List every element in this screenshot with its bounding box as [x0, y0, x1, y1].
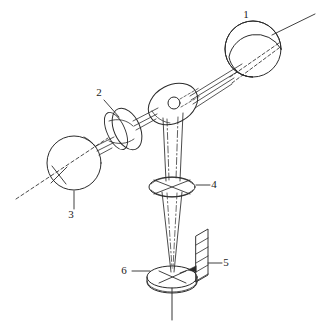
callout-label-1: 1 — [243, 8, 249, 20]
callout-1-leader — [272, 14, 315, 35]
diagram-canvas: 1 2 3 4 5 6 — [0, 0, 322, 325]
focus-cross-sphere-3 — [51, 166, 67, 184]
beam-converging — [162, 192, 182, 272]
hatched-plate — [180, 229, 208, 282]
central-tilted-disc — [141, 75, 205, 133]
objective-lens — [149, 177, 195, 197]
callout-label-5: 5 — [223, 256, 229, 268]
callout-label-6: 6 — [121, 264, 127, 276]
optical-diagram-figure: 1 2 3 4 5 6 — [0, 0, 322, 325]
sphere-lower-left — [47, 136, 101, 190]
tilted-lens-element — [100, 104, 148, 155]
callout-label-2: 2 — [96, 86, 102, 98]
dashed-axis-lower-left — [16, 138, 108, 199]
sphere-upper-right — [225, 21, 281, 77]
specimen-stage-disc — [147, 266, 197, 320]
callout-label-4: 4 — [211, 178, 217, 190]
callout-label-3: 3 — [68, 208, 74, 220]
beam-column-upper — [163, 113, 183, 181]
